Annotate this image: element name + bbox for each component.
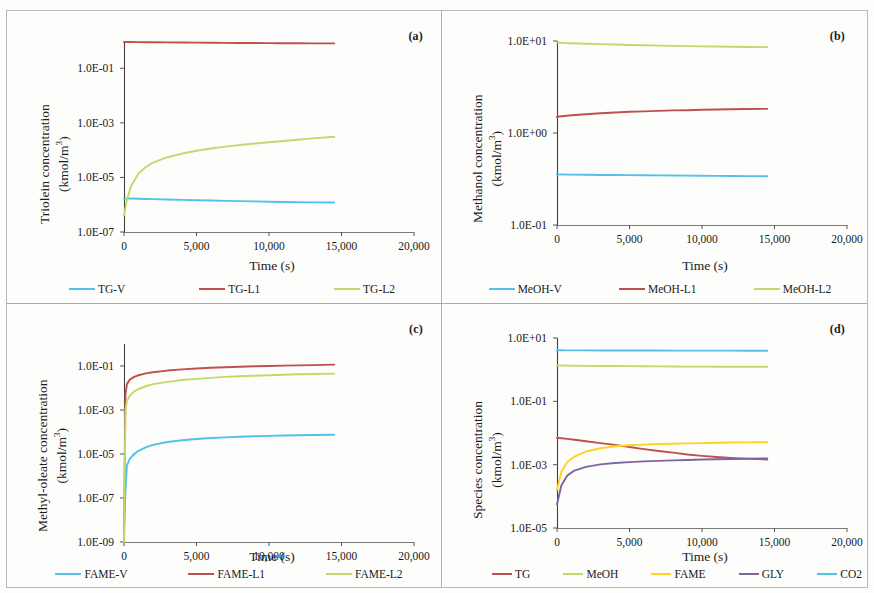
panel-d: (d) Species concentration (kmol/m3) 1.0E… [442,304,867,587]
panel-c-tag: (c) [409,322,423,337]
legend-swatch-icon [651,573,671,575]
legend-item: FAME-V [55,568,127,580]
panel-d-x-tick-label: 10,000 [686,536,718,548]
legend-item: CO2 [817,568,862,580]
panel-b-x-tick-label: 20,000 [831,233,863,245]
legend-swatch-icon [563,573,583,575]
legend-item: TG-L2 [334,283,395,295]
panel-d-y-tick-label: 1.0E-01 [477,395,547,407]
panel-a-x-tick-label: 5,000 [184,240,210,252]
legend-item: GLY [739,568,784,580]
legend-item: FAME-L1 [188,568,265,580]
legend-label: FAME-L1 [217,568,265,580]
legend-label: TG [515,568,530,580]
panel-b-x-axis-title: Time (s) [560,258,850,274]
panel-b-x-tick-label: 5,000 [617,233,643,245]
panel-a-x-tick-label: 20,000 [398,240,430,252]
panel-c-x-tick-label: 0 [121,550,127,562]
panel-a-svg [124,41,416,234]
panel-c-legend: FAME-VFAME-L1FAME-L2 [25,568,433,580]
legend-item: MeOH-L1 [619,283,697,295]
panel-d-y-tick-label: 1.0E-05 [477,522,547,534]
panel-d-legend: TGMeOHFAMEGLYCO2 [492,568,862,580]
legend-item: FAME [651,568,705,580]
legend-swatch-icon [492,573,512,575]
legend-item: TG-V [69,283,125,295]
legend-item: MeOH-L2 [754,283,832,295]
legend-label: FAME-V [84,568,127,580]
series-line-tg-l1 [124,42,334,43]
panel-c-y-tick-label: 1.0E-01 [44,360,114,372]
legend-swatch-icon [489,288,515,290]
panel-b-x-tick-label: 10,000 [686,233,718,245]
legend-label: TG-L2 [363,283,395,295]
panel-a-x-tick-label: 0 [121,240,127,252]
legend-item: MeOH [563,568,618,580]
panel-c-y-tick-label: 1.0E-07 [44,492,114,504]
series-line-gly [557,458,767,504]
panel-b-plot-area: 1.0E+011.0E+001.0E-0105,00010,00015,0002… [557,41,849,227]
legend-label: TG-V [98,283,125,295]
panel-a-plot-area: 1.0E-011.0E-031.0E-051.0E-0705,00010,000… [124,41,416,234]
panel-b-y-axis-title: Methanol concentration (kmol/m3) [470,94,504,223]
panel-b-y-tick-label: 1.0E-01 [477,219,547,231]
legend-label: FAME [674,568,705,580]
legend-label: FAME-L2 [355,568,403,580]
panel-a-x-tick-label: 10,000 [253,240,285,252]
legend-swatch-icon [326,573,352,575]
legend-label: MeOH-L1 [648,283,697,295]
panel-a-x-axis-title: Time (s) [127,258,417,274]
panel-a-y-tick-label: 1.0E-07 [44,226,114,238]
panel-a: (a) Triolein concentration (kmol/m3) 1.0… [7,11,441,303]
legend-label: MeOH [586,568,618,580]
panel-d-y-tick-label: 1.0E+01 [477,332,547,344]
panel-d-plot-area: 1.0E+011.0E-011.0E-031.0E-0505,00010,000… [557,338,849,530]
panel-b-y-tick-label: 1.0E+01 [477,35,547,47]
panel-d-y-tick-label: 1.0E-03 [477,459,547,471]
series-line-fame-l2 [124,374,334,542]
legend-item: TG-L1 [199,283,260,295]
series-line-tg-l2 [124,137,334,216]
panel-b-x-tick-label: 15,000 [759,233,791,245]
panel-c-y-tick-label: 1.0E-05 [44,448,114,460]
series-line-meoh-l2 [557,43,767,47]
legend-swatch-icon [69,288,95,290]
panel-d-x-tick-label: 0 [554,536,560,548]
series-line-fame-v [124,435,334,529]
panel-c-y-tick-label: 1.0E-03 [44,404,114,416]
legend-swatch-icon [817,573,837,575]
legend-label: GLY [762,568,784,580]
panel-a-x-tick-label: 15,000 [326,240,358,252]
panel-d-x-tick-label: 20,000 [831,536,863,548]
legend-swatch-icon [199,288,225,290]
legend-swatch-icon [55,573,81,575]
panel-a-legend: TG-VTG-L1TG-L2 [32,283,432,295]
panel-b-y-axis-title-line1: Methanol concentration [470,94,485,223]
panel-c-svg [124,344,416,544]
panel-b-y-tick-label: 1.0E+00 [477,127,547,139]
legend-label: CO2 [840,568,862,580]
panel-c-y-tick-label: 1.0E-09 [44,536,114,548]
panel-b: (b) Methanol concentration (kmol/m3) 1.0… [442,11,867,303]
panel-d-x-tick-label: 5,000 [617,536,643,548]
panel-a-y-tick-label: 1.0E-03 [44,117,114,129]
figure-root: (a) Triolein concentration (kmol/m3) 1.0… [0,0,874,593]
legend-swatch-icon [619,288,645,290]
series-line-fame-l1 [124,365,334,542]
legend-swatch-icon [334,288,360,290]
panel-d-x-axis-title: Time (s) [560,549,850,565]
panel-a-y-tick-label: 1.0E-01 [44,62,114,74]
panel-c-x-axis-title: Time (s) [127,549,417,565]
panel-a-y-tick-label: 1.0E-05 [44,171,114,183]
series-line-tg [557,438,767,460]
panel-d-x-tick-label: 15,000 [759,536,791,548]
panel-b-y-axis-title-line2: (kmol/m3) [485,94,504,223]
legend-swatch-icon [188,573,214,575]
legend-swatch-icon [739,573,759,575]
legend-swatch-icon [754,288,780,290]
series-line-tg-v [124,198,334,202]
legend-label: MeOH-L2 [783,283,832,295]
panel-b-legend: MeOH-VMeOH-L1MeOH-L2 [460,283,860,295]
series-line-meoh-v [557,174,767,176]
series-line-meoh-l1 [557,109,767,117]
